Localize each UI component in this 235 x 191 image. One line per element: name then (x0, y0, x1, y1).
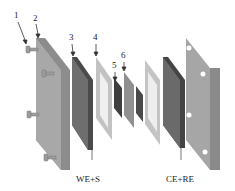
plate-6 (124, 72, 134, 128)
gasket-frame (96, 57, 112, 140)
exploded-view-drawing (0, 0, 235, 191)
label-number-4: 4 (93, 33, 98, 42)
counter-electrode-plate (163, 57, 185, 160)
label-ce-re: CE+RE (166, 175, 194, 184)
end-plate-right (186, 38, 220, 170)
working-electrode-plate (72, 57, 93, 160)
membrane-dark (136, 86, 143, 122)
end-plate-left (36, 38, 70, 170)
exploded-cell-diagram: 1 2 3 4 5 6 WE+S CE+RE (0, 0, 235, 191)
membrane-5 (114, 78, 122, 118)
label-number-3: 3 (69, 33, 74, 42)
label-we-s: WE+S (76, 175, 100, 184)
label-number-1: 1 (14, 11, 19, 20)
label-number-5: 5 (112, 61, 117, 70)
gasket-frame-right (145, 60, 160, 145)
label-number-6: 6 (121, 51, 126, 60)
label-number-2: 2 (33, 14, 38, 23)
